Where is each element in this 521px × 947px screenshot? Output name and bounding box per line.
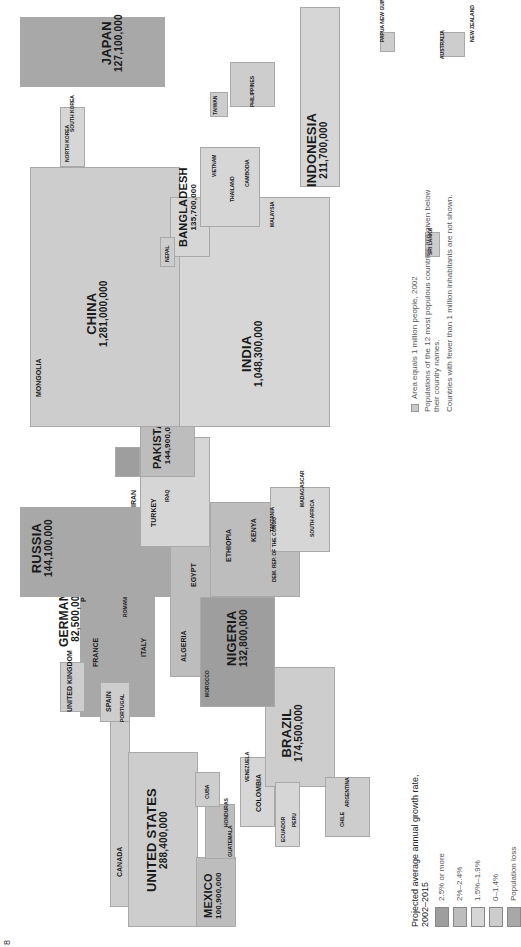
label-china: China1,281,000,000 xyxy=(85,280,109,347)
label-cambodia: Cambodia xyxy=(245,160,250,188)
label-honduras: Honduras xyxy=(224,798,229,827)
legend: Projected average annual growth rate, 20… xyxy=(410,757,521,927)
legend-item-0-1-4: 0–1.4% xyxy=(489,757,503,927)
label-russia: Russia144,100,000 xyxy=(30,519,54,577)
label-united-states: United States288,400,000 xyxy=(145,788,169,892)
swatch-icon xyxy=(507,907,521,927)
label-egypt: Egypt xyxy=(190,563,197,587)
label-nigeria: Nigeria132,800,000 xyxy=(225,609,249,667)
label-south-korea: South Korea xyxy=(70,95,75,132)
label-mexico: Mexico100,900,000 xyxy=(203,872,223,919)
note-populations: Populations of the 12 most populous coun… xyxy=(423,182,442,412)
label-cuba: Cuba xyxy=(205,785,210,799)
label-india: India1,048,300,000 xyxy=(240,320,264,387)
label-ecuador: Ecuador xyxy=(281,817,286,842)
label-uk: United Kingdom xyxy=(66,650,73,712)
note-small-countries: Countries with fewer than 1 million inha… xyxy=(445,182,455,412)
label-chile: Chile xyxy=(340,812,345,827)
label-peru: Peru xyxy=(292,813,297,827)
label-colombia: Colombia xyxy=(255,774,262,812)
legend-title: Projected average annual growth rate, 20… xyxy=(410,757,431,927)
label-malaysia: Malaysia xyxy=(270,201,275,227)
label-mongolia: Mongolia xyxy=(35,359,42,398)
label-japan: Japan127,100,000 xyxy=(100,14,124,72)
label-brazil: Brazil174,500,000 xyxy=(280,704,304,762)
label-thailand: Thailand xyxy=(230,176,235,202)
label-france: France xyxy=(92,638,99,667)
label-ethiopia: Ethiopia xyxy=(225,529,232,562)
label-canada: Canada xyxy=(116,847,123,877)
label-morocco: Morocco xyxy=(205,670,210,697)
swatch-icon xyxy=(435,907,449,927)
label-spain: Spain xyxy=(105,691,112,712)
note-area: Area equals 1 million people, 2002 xyxy=(410,276,419,399)
label-kenya: Kenya xyxy=(250,518,257,542)
label-iraq: Iraq xyxy=(165,490,170,503)
legend-item-1-5-1-9: 1.5%–1.9% xyxy=(471,757,485,927)
region-canada xyxy=(110,717,130,907)
label-guatemala: Guatemala xyxy=(228,825,233,857)
swatch-icon xyxy=(471,907,485,927)
unit-square-icon xyxy=(411,404,419,412)
label-bangladesh: Bangladesh135,700,000 xyxy=(178,167,198,247)
map-notes: Area equals 1 million people, 2002 Popul… xyxy=(410,182,457,412)
page-number: 8 xyxy=(2,940,12,945)
label-south-africa: South Africa xyxy=(310,499,315,537)
swatch-icon xyxy=(453,907,467,927)
label-australia: Australia xyxy=(440,30,445,59)
label-drc: Dem. Rep. of the Congo xyxy=(272,517,277,582)
legend-item-2-5-or-more: 2.5% or more xyxy=(435,757,449,927)
label-argentina: Argentina xyxy=(345,777,350,807)
label-italy: Italy xyxy=(140,638,147,657)
legend-item-population-loss: Population loss xyxy=(507,757,521,927)
label-venezuela: Venezuela xyxy=(245,752,250,782)
swatch-icon xyxy=(489,907,503,927)
label-indonesia: Indonesia211,700,000 xyxy=(305,113,329,187)
label-taiwan: Taiwan xyxy=(213,96,218,115)
label-nepal: Nepal xyxy=(165,245,170,262)
label-madagascar: Madagascar xyxy=(300,470,305,507)
label-new-zealand: New Zealand xyxy=(470,5,475,42)
label-philippines: Philippines xyxy=(250,76,255,107)
label-portugal: Portugal xyxy=(120,694,125,722)
region-afghanistan xyxy=(115,447,140,477)
label-turkey: Turkey xyxy=(150,498,157,527)
legend-item-2-2-4: 2%–2.4% xyxy=(453,757,467,927)
label-png: Papua New Guinea xyxy=(380,0,385,42)
region-japan xyxy=(20,17,165,87)
label-iran: Iran xyxy=(130,490,137,507)
label-algeria: Algeria xyxy=(180,631,187,663)
label-vietnam: Vietnam xyxy=(212,155,217,178)
